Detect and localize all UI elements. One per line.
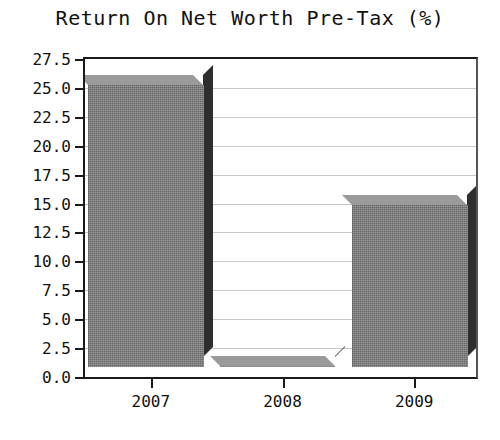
y-axis-label: 22.5 — [32, 107, 71, 126]
bar-top-face — [210, 356, 335, 366]
x-axis-tick — [283, 379, 285, 388]
y-axis-tick — [75, 319, 83, 321]
bar-2008 — [220, 366, 335, 367]
bar-chart: Return On Net Worth Pre-Tax (%) 27.525.0… — [0, 0, 500, 440]
y-axis-tick — [75, 175, 83, 177]
y-axis-tick — [75, 377, 83, 379]
y-axis-tick — [75, 204, 83, 206]
y-axis-label: 15.0 — [32, 194, 71, 213]
x-axis-label: 2007 — [132, 392, 171, 411]
y-axis-tick — [75, 261, 83, 263]
y-axis-label: 27.5 — [32, 50, 71, 69]
chart-title: Return On Net Worth Pre-Tax (%) — [0, 6, 500, 30]
bar-front-face — [220, 366, 335, 367]
bar-side-face — [335, 346, 345, 357]
x-axis-tick — [151, 379, 153, 388]
y-axis-tick — [75, 88, 83, 90]
x-axis-label: 2009 — [395, 392, 434, 411]
bar-2007 — [88, 85, 203, 367]
bar-side-face — [467, 185, 477, 357]
bar-front-face — [352, 205, 468, 367]
bars-layer — [85, 59, 476, 377]
y-axis-label: 17.5 — [32, 165, 71, 184]
x-axis-tick — [414, 379, 416, 388]
bar-top-face — [342, 195, 467, 205]
y-axis-label: 7.5 — [42, 281, 71, 300]
y-axis-tick — [75, 348, 83, 350]
y-axis-label: 25.0 — [32, 78, 71, 97]
y-axis-tick — [75, 232, 83, 234]
bar-2009 — [352, 205, 467, 367]
y-axis-label: 20.0 — [32, 136, 71, 155]
y-axis-label: 2.5 — [42, 339, 71, 358]
y-axis-label: 12.5 — [32, 223, 71, 242]
y-axis-tick — [75, 117, 83, 119]
plot-area — [83, 57, 478, 379]
y-axis-tick — [75, 59, 83, 61]
y-axis-tick — [75, 146, 83, 148]
bar-front-face — [88, 85, 204, 367]
y-axis-tick — [75, 290, 83, 292]
bar-side-face — [203, 65, 213, 357]
y-axis-label: 0.0 — [42, 368, 71, 387]
y-axis-label: 5.0 — [42, 310, 71, 329]
x-axis-label: 2008 — [263, 392, 302, 411]
bar-top-face — [83, 75, 203, 85]
y-axis-label: 10.0 — [32, 252, 71, 271]
